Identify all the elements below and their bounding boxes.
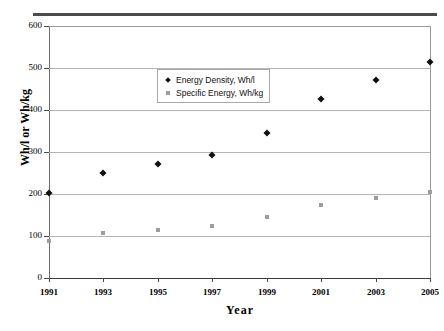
x-axis-tick-label: 2001 — [301, 287, 341, 297]
x-axis-tick — [103, 278, 104, 282]
data-point-energy-density — [372, 76, 379, 83]
data-point-specific-energy — [210, 224, 214, 228]
y-axis-tick — [44, 236, 49, 237]
x-axis-tick — [49, 278, 50, 282]
x-axis-tick-label: 2003 — [356, 287, 396, 297]
chart-legend: Energy Density, Wh/l Specific Energy, Wh… — [157, 69, 270, 103]
data-point-energy-density — [426, 58, 433, 65]
x-axis-tick — [267, 278, 268, 282]
y-axis-tick-label: 0 — [2, 272, 42, 282]
x-axis-tick — [212, 278, 213, 282]
square-marker-icon — [163, 91, 173, 95]
diamond-marker-icon — [163, 78, 173, 82]
x-axis-tick-label: 1995 — [138, 287, 178, 297]
y-axis-tick — [44, 68, 49, 69]
y-axis-tick-label: 100 — [2, 230, 42, 240]
legend-item-energy-density: Energy Density, Wh/l — [163, 73, 263, 86]
x-axis-tick-label: 1993 — [83, 287, 123, 297]
x-axis-title: Year — [49, 303, 431, 318]
data-point-specific-energy — [156, 228, 160, 232]
x-axis-tick-label: 1997 — [192, 287, 232, 297]
x-axis-line — [49, 278, 431, 279]
x-axis-tick — [158, 278, 159, 282]
gridline — [49, 110, 430, 111]
legend-item-specific-energy: Specific Energy, Wh/kg — [163, 86, 263, 99]
chart-figure: 0100200300400500600 19911993199519971999… — [0, 0, 444, 331]
data-point-specific-energy — [428, 190, 432, 194]
data-point-energy-density — [318, 95, 325, 102]
x-axis-tick-label: 1991 — [29, 287, 69, 297]
data-point-energy-density — [45, 189, 52, 196]
top-rule-divider — [33, 13, 437, 16]
x-axis-tick — [430, 278, 431, 282]
data-point-specific-energy — [265, 215, 269, 219]
gridline — [49, 26, 430, 27]
gridline — [49, 236, 430, 237]
data-point-specific-energy — [101, 231, 105, 235]
x-axis-tick-label: 2005 — [410, 287, 444, 297]
y-axis-tick — [44, 152, 49, 153]
x-axis-tick-label: 1999 — [247, 287, 287, 297]
x-axis-tick — [376, 278, 377, 282]
x-axis-tick — [321, 278, 322, 282]
data-point-energy-density — [154, 160, 161, 167]
legend-label: Energy Density, Wh/l — [176, 75, 255, 85]
y-axis-tick — [44, 26, 49, 27]
gridline — [49, 152, 430, 153]
data-point-energy-density — [100, 169, 107, 176]
data-point-specific-energy — [319, 203, 323, 207]
data-point-specific-energy — [374, 196, 378, 200]
y-axis-tick-label: 600 — [2, 20, 42, 30]
y-axis-tick — [44, 110, 49, 111]
data-point-energy-density — [263, 130, 270, 137]
data-point-specific-energy — [47, 239, 51, 243]
legend-label: Specific Energy, Wh/kg — [176, 88, 263, 98]
y-axis-title: Wh/l or Wh/kg — [18, 48, 33, 208]
